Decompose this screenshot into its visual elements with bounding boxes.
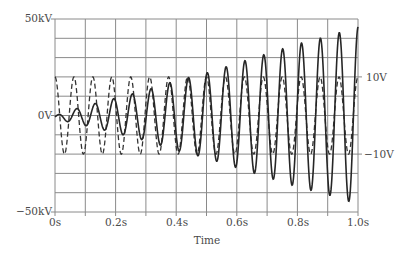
y-left-tick-50kv: 50kV	[4, 12, 52, 24]
x-tick-0.4s: 0.4s	[157, 216, 197, 228]
y-right-tick-neg10v: −10V	[364, 148, 394, 160]
x-axis-label: Time	[187, 234, 227, 246]
x-tick-0s: 0s	[35, 216, 75, 228]
y-right-tick-10v: 10V	[366, 71, 387, 83]
y-left-tick-0v: 0V	[4, 109, 52, 121]
x-tick-0.8s: 0.8s	[278, 216, 318, 228]
x-tick-0.2s: 0.2s	[96, 216, 136, 228]
x-tick-1.0s: 1.0s	[338, 216, 378, 228]
x-tick-0.6s: 0.6s	[217, 216, 257, 228]
